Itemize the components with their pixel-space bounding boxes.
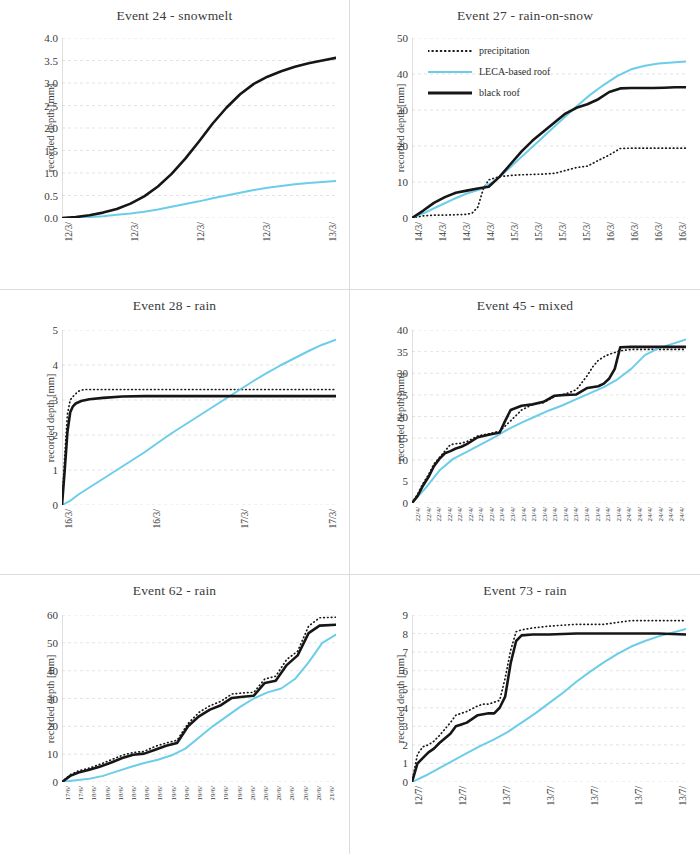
- x-tick-label: 16/3/: [630, 222, 640, 242]
- x-tick-label: 15/3/: [558, 222, 568, 242]
- x-axis-ticks: 14/3/14/3/14/3/14/3/15/3/15/3/15/3/15/3/…: [412, 222, 686, 288]
- x-tick-label: 24/4/: [657, 507, 665, 521]
- y-tick-label: 0: [53, 776, 59, 788]
- x-tick-label: 23/4/: [572, 507, 580, 521]
- legend-label: LECA-based roof: [479, 67, 550, 77]
- x-tick-label: 23/4/: [541, 507, 549, 521]
- chart-title: Event 24 - snowmelt: [0, 8, 349, 24]
- x-tick-label: 12/7/: [458, 786, 468, 806]
- y-tick-label: 30: [47, 693, 58, 705]
- y-tick-label: 4: [53, 359, 59, 371]
- x-tick-label: 13/7/: [634, 786, 644, 806]
- y-tick-label: 2: [403, 739, 409, 751]
- x-tick-label: 18/6/: [117, 786, 125, 800]
- legend-swatch-icon: [428, 46, 472, 56]
- x-tick-label: 20/6/: [315, 786, 323, 800]
- series-line: [412, 629, 686, 782]
- chart-panel-1: Event 24 - snowmeltrecorded depth [mm]0.…: [0, 0, 350, 290]
- y-axis-ticks: 0.00.51.01.52.02.53.03.54.0: [20, 38, 58, 218]
- y-tick-label: 5: [53, 324, 59, 336]
- chart-panel-6: Event 73 - rainrecorded depth [mm]012345…: [350, 575, 700, 854]
- x-tick-label: 20/6/: [275, 786, 283, 800]
- y-tick-label: 35: [397, 346, 408, 358]
- legend-item[interactable]: precipitation: [428, 40, 550, 61]
- x-tick-label: 12/3/: [64, 222, 74, 242]
- x-tick-label: 23/4/: [551, 507, 559, 521]
- y-tick-label: 5: [403, 475, 409, 487]
- y-tick-label: 2.5: [44, 100, 58, 112]
- y-tick-label: 25: [397, 389, 408, 401]
- y-tick-label: 3: [403, 720, 409, 732]
- x-tick-label: 22/4/: [467, 507, 475, 521]
- x-tick-label: 16/3/: [152, 509, 162, 529]
- y-tick-label: 3: [53, 394, 59, 406]
- y-tick-label: 2.0: [44, 122, 58, 134]
- y-tick-label: 5: [403, 683, 409, 695]
- chart-title: Event 27 - rain-on-snow: [350, 8, 700, 24]
- x-tick-label: 23/4/: [520, 507, 528, 521]
- y-axis-ticks: 0510152025303540: [370, 330, 408, 503]
- x-tick-label: 20/6/: [262, 786, 270, 800]
- x-tick-label: 22/4/: [446, 507, 454, 521]
- y-tick-label: 0.0: [44, 212, 58, 224]
- y-tick-label: 40: [47, 665, 58, 677]
- x-tick-label: 18/6/: [90, 786, 98, 800]
- y-tick-label: 50: [397, 32, 408, 44]
- x-tick-label: 13/3/: [328, 222, 338, 242]
- x-tick-label: 12/3/: [196, 222, 206, 242]
- x-tick-label: 22/4/: [425, 507, 433, 521]
- y-tick-label: 20: [397, 411, 408, 423]
- x-tick-label: 24/4/: [646, 507, 654, 521]
- y-tick-label: 60: [47, 609, 58, 621]
- y-tick-label: 1.5: [44, 145, 58, 157]
- x-tick-label: 22/4/: [435, 507, 443, 521]
- x-tick-label: 21/6/: [328, 786, 336, 800]
- y-axis-ticks: 012345: [20, 330, 58, 505]
- x-tick-label: 19/6/: [183, 786, 191, 800]
- x-tick-label: 22/4/: [414, 507, 422, 521]
- y-tick-label: 1: [403, 757, 409, 769]
- y-tick-label: 3.5: [44, 55, 58, 67]
- y-tick-label: 1.0: [44, 167, 58, 179]
- x-tick-label: 13/7/: [502, 786, 512, 806]
- series-line: [412, 340, 686, 503]
- plot-area: [62, 38, 336, 218]
- series-line: [62, 617, 336, 782]
- y-tick-label: 2: [53, 429, 59, 441]
- series-line: [412, 347, 686, 503]
- series-line: [412, 148, 686, 218]
- y-tick-label: 4: [403, 702, 409, 714]
- series-line: [412, 349, 686, 503]
- x-tick-label: 23/4/: [583, 507, 591, 521]
- series-line: [62, 390, 336, 506]
- y-tick-label: 40: [397, 68, 408, 80]
- y-tick-label: 9: [403, 609, 409, 621]
- x-tick-label: 13/7/: [678, 786, 688, 806]
- y-tick-label: 1: [53, 464, 59, 476]
- legend-item[interactable]: LECA-based roof: [428, 61, 550, 82]
- y-tick-label: 50: [47, 637, 58, 649]
- y-tick-label: 7: [403, 646, 409, 658]
- x-tick-label: 17/3/: [240, 509, 250, 529]
- x-tick-label: 24/4/: [678, 507, 686, 521]
- series-line: [62, 340, 336, 505]
- x-tick-label: 19/6/: [196, 786, 204, 800]
- chart-title: Event 62 - rain: [0, 583, 349, 599]
- x-tick-label: 23/4/: [615, 507, 623, 521]
- x-tick-label: 23/4/: [594, 507, 602, 521]
- y-tick-label: 0: [53, 499, 59, 511]
- plot-area: [412, 330, 686, 503]
- y-axis-ticks: 0123456789: [370, 615, 408, 782]
- x-tick-label: 14/3/: [414, 222, 424, 242]
- legend-label: black roof: [479, 88, 520, 98]
- x-tick-label: 22/4/: [456, 507, 464, 521]
- x-tick-label: 23/4/: [604, 507, 612, 521]
- x-tick-label: 16/3/: [606, 222, 616, 242]
- x-tick-label: 24/4/: [667, 507, 675, 521]
- legend-item[interactable]: black roof: [428, 82, 550, 103]
- x-axis-ticks: 12/7/12/7/13/7/13/7/13/7/13/7/13/7/: [412, 786, 686, 852]
- x-tick-label: 23/4/: [562, 507, 570, 521]
- x-tick-label: 23/4/: [498, 507, 506, 521]
- y-tick-label: 4.0: [44, 32, 58, 44]
- x-tick-label: 14/3/: [438, 222, 448, 242]
